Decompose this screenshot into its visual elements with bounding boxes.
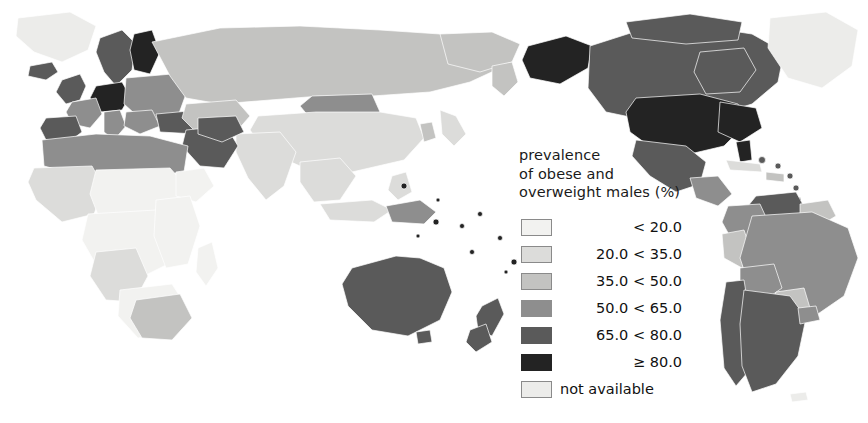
region-pacific-island-dot — [470, 250, 475, 255]
region-caribbean-island-dot — [759, 157, 766, 164]
legend-entry-50-65: 50.0 < 65.0 — [519, 297, 734, 324]
legend-title-line-2: of obese and — [519, 165, 734, 184]
region-pacific-island-dot — [460, 224, 465, 229]
legend-label-20-35: 20.0 < 35.0 — [519, 245, 682, 264]
legend-entry-20-35: 20.0 < 35.0 — [519, 243, 734, 270]
region-caribbean-island-dot — [775, 163, 781, 169]
world-map — [0, 0, 868, 423]
region-pacific-island-dot — [433, 219, 439, 225]
region-pacific-island-dot — [436, 198, 440, 202]
legend-label-50-65: 50.0 < 65.0 — [519, 299, 682, 318]
legend-label-35-50: 35.0 < 50.0 — [519, 272, 682, 291]
legend-title-line-3: overweight males (%) — [519, 183, 734, 202]
region-pacific-island-dot — [416, 234, 420, 238]
region-pacific-island-dot — [498, 236, 503, 241]
region-pacific-island-dot — [504, 270, 508, 274]
legend-entry-35-50: 35.0 < 50.0 — [519, 270, 734, 297]
world-map-svg — [0, 0, 868, 423]
region-tasmania — [416, 330, 432, 344]
legend-label-lt-20: < 20.0 — [519, 218, 682, 237]
legend-label-gte-80: ≥ 80.0 — [519, 353, 682, 372]
legend-entry-not-available: not available — [519, 378, 734, 405]
legend-entries: < 20.0 20.0 < 35.0 35.0 < 50.0 50.0 < 65… — [519, 216, 734, 405]
region-pacific-island-dot — [478, 212, 483, 217]
legend-label-65-80: 65.0 < 80.0 — [519, 326, 682, 345]
region-pacific-island-dot — [401, 183, 407, 189]
legend-entry-65-80: 65.0 < 80.0 — [519, 324, 734, 351]
region-caribbean-island-dot — [787, 173, 793, 179]
legend-title: prevalence of obese and overweight males… — [519, 146, 734, 202]
legend-entry-lt-20: < 20.0 — [519, 216, 734, 243]
region-falklands — [790, 392, 808, 402]
legend-entry-gte-80: ≥ 80.0 — [519, 351, 734, 378]
choropleth-figure: prevalence of obese and overweight males… — [0, 0, 868, 423]
map-legend: prevalence of obese and overweight males… — [519, 146, 734, 404]
legend-swatch-not-available — [521, 381, 552, 398]
region-caribbean-island-dot — [793, 185, 799, 191]
legend-title-line-1: prevalence — [519, 146, 734, 165]
legend-label-not-available: not available — [560, 380, 720, 399]
region-pacific-island-dot — [511, 259, 517, 265]
region-hispaniola — [766, 172, 784, 182]
